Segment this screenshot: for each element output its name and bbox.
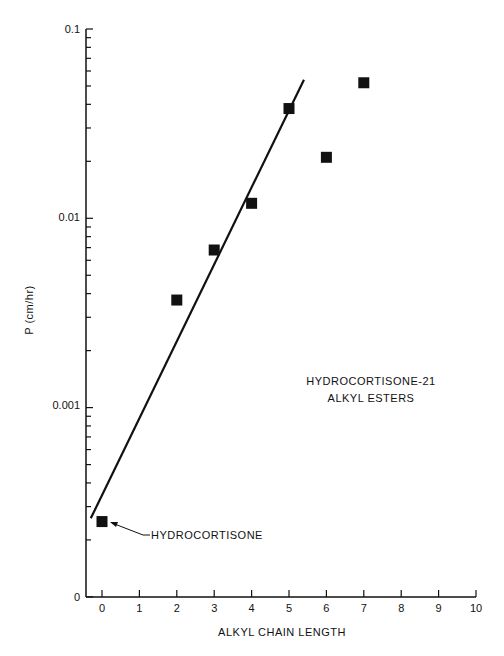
x-tick-label: 2 [174,602,180,614]
x-tick-label: 4 [249,602,255,614]
y-tick-label: 0.001 [52,399,80,411]
data-point-square-icon [321,152,332,163]
data-point-square-icon [209,245,220,256]
y-tick-label: 0.1 [65,23,80,35]
x-tick-label: 1 [136,602,142,614]
data-points [97,77,370,527]
y-axis-title: P (cm/hr) [23,285,35,335]
series-label-line2: ALKYL ESTERS [328,392,415,404]
series-label-line1: HYDROCORTISONE-21 [306,375,435,387]
y-tick-label: 0.01 [59,211,80,223]
hydrocortisone-label: HYDROCORTISONE [151,529,263,541]
x-tick-label: 0 [99,602,105,614]
x-tick-label: 7 [361,602,367,614]
x-tick-label: 10 [470,602,482,614]
data-point-square-icon [97,516,108,527]
data-point-square-icon [284,103,295,114]
y-axis-ticks [86,29,93,597]
x-axis-title: ALKYL CHAIN LENGTH [218,626,346,638]
data-point-square-icon [171,295,182,306]
x-tick-label: 9 [436,602,442,614]
x-tick-label: 6 [323,602,329,614]
x-tick-label: 3 [211,602,217,614]
y-tick-label: 0 [74,591,80,603]
x-axis-ticks [102,590,476,597]
data-point-square-icon [246,198,257,209]
data-point-square-icon [358,77,369,88]
arrow-head-icon [110,522,118,527]
regression-line [91,80,304,519]
chart: 0.1 0.01 0.001 0 012345678910 ALKYL CHAI… [0,0,504,656]
x-tick-label: 5 [286,602,292,614]
x-tick-label: 8 [398,602,404,614]
x-tick-labels: 012345678910 [99,602,482,614]
